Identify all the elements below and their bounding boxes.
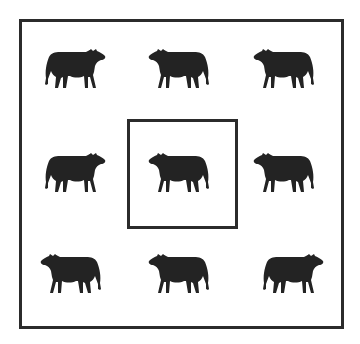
cow-icon [148,152,212,192]
cow-icon [42,152,106,192]
cow-icon [40,253,104,293]
cow-icon [42,48,106,88]
cow-icon [148,253,212,293]
cow-icon [260,253,324,293]
cow-icon [253,152,317,192]
cow-icon [253,48,317,88]
cow-icon [148,48,212,88]
